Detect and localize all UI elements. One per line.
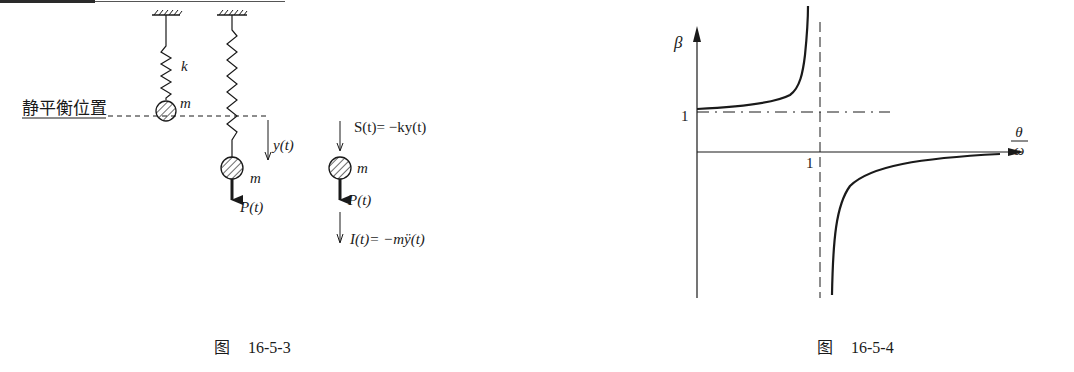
response-curve-branch-2 bbox=[832, 154, 1000, 295]
x-axis-label-numerator: θ bbox=[1015, 124, 1023, 140]
load-label-free: P(t) bbox=[347, 192, 371, 209]
mass-static-label: m bbox=[180, 95, 191, 111]
figures-canvas: k m 静平衡位置 y(t) m P(t) S(t)= −ky(t) m P(t… bbox=[0, 0, 1074, 372]
spring-2 bbox=[227, 15, 237, 158]
mass-displaced bbox=[221, 157, 243, 179]
displacement-label: y(t) bbox=[271, 137, 294, 154]
response-curve-branch-1 bbox=[697, 6, 808, 109]
mass-free-body-label: m bbox=[357, 160, 368, 176]
caption-number: 16-5-3 bbox=[248, 339, 291, 356]
spring-1 bbox=[161, 15, 171, 100]
load-label-middle: P(t) bbox=[239, 199, 263, 216]
mass-static bbox=[156, 101, 176, 121]
ground-support-1 bbox=[152, 10, 182, 15]
mass-displaced-label: m bbox=[250, 170, 261, 186]
spring-force-label: S(t)= −ky(t) bbox=[354, 119, 426, 136]
inertia-force-label: I(t)= −mÿ(t) bbox=[349, 231, 425, 248]
caption-prefix: 图 bbox=[817, 338, 833, 357]
caption-figure-16-5-4: 图16-5-4 bbox=[817, 334, 894, 358]
mass-free-body bbox=[329, 157, 351, 179]
spring-constant-label: k bbox=[181, 58, 188, 74]
y-axis-label: β bbox=[673, 33, 683, 52]
caption-figure-16-5-3: 图16-5-3 bbox=[214, 334, 291, 358]
x-tick-1: 1 bbox=[806, 155, 814, 171]
y-tick-1: 1 bbox=[681, 108, 689, 124]
figure-16-5-3: k m 静平衡位置 y(t) m P(t) S(t)= −ky(t) m P(t… bbox=[22, 10, 426, 248]
ground-support-2 bbox=[217, 10, 247, 15]
caption-number: 16-5-4 bbox=[851, 339, 894, 356]
x-axis-label-denominator: ω bbox=[1014, 142, 1025, 158]
equilibrium-label: 静平衡位置 bbox=[22, 99, 107, 118]
caption-prefix: 图 bbox=[214, 338, 230, 357]
figure-16-5-4: β θ ω 1 1 bbox=[673, 6, 1028, 298]
